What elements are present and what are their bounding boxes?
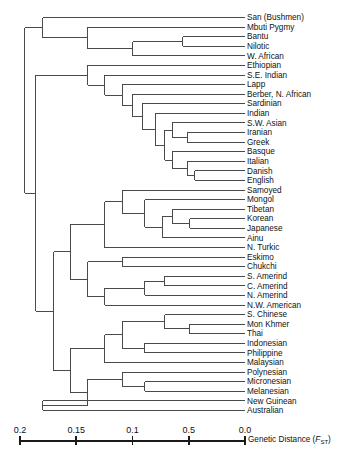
leaf-label: Tibetan	[247, 205, 274, 214]
leaf-label: Nilotic	[247, 42, 269, 51]
leaf-label: Polynesian	[247, 368, 288, 377]
leaf-label: N.W. American	[247, 301, 302, 310]
leaf-label: Melanesian	[247, 387, 289, 396]
axis-tick-label: 0.15	[67, 425, 85, 435]
dendrogram-figure: San (Bushmen)Mbuti PygmyBantuNiloticW. A…	[0, 0, 345, 449]
leaf-label: Ethiopian	[247, 61, 282, 70]
tree-branches	[25, 18, 246, 411]
leaf-label: Basque	[247, 147, 275, 156]
leaf-label: C. Amerind	[247, 282, 288, 291]
leaf-label: Philippine	[247, 349, 283, 358]
leaf-label: Eskimo	[247, 253, 274, 262]
leaf-label: Greek	[247, 138, 270, 147]
axis-title: Genetic Distance (FST)	[248, 435, 331, 444]
leaf-label: Mongol	[247, 195, 274, 204]
leaf-label: Samoyed	[247, 186, 282, 195]
leaf-label: Berber, N. African	[247, 90, 312, 99]
leaf-label: Sardinian	[247, 99, 282, 108]
axis-tick-label: 0.5	[182, 425, 195, 435]
leaf-label: English	[247, 176, 274, 185]
leaf-label: San (Bushmen)	[247, 13, 304, 22]
leaf-label: Chukchi	[247, 262, 277, 271]
leaf-label: Japanese	[247, 224, 283, 233]
leaf-label: Micronesian	[247, 377, 292, 386]
leaf-label: Malaysian	[247, 358, 284, 367]
leaf-label: Mbuti Pygmy	[247, 23, 295, 32]
leaf-label: S.W. Asian	[247, 119, 287, 128]
axis-tick-label: 0.0	[239, 425, 252, 435]
leaf-label: Indian	[247, 109, 270, 118]
leaf-label: S. Amerind	[247, 272, 287, 281]
leaf-label: New Guinean	[247, 397, 297, 406]
leaf-label: Korean	[247, 214, 274, 223]
leaf-label: N. Turkic	[247, 243, 279, 252]
leaf-label: N. Amerind	[247, 291, 288, 300]
leaf-label: Ainu	[247, 234, 264, 243]
leaf-label: S.E. Indian	[247, 71, 288, 80]
leaf-label: Mon Khmer	[247, 320, 290, 329]
axis-tick-label: 0.2	[14, 425, 27, 435]
leaf-label: Bantu	[247, 32, 269, 41]
phylogenetic-tree-svg: San (Bushmen)Mbuti PygmyBantuNiloticW. A…	[0, 0, 345, 449]
genetic-distance-axis: 0.20.150.10.50.0Genetic Distance (FST)	[14, 425, 331, 445]
axis-tick-label: 0.1	[126, 425, 139, 435]
leaf-label: S. Chinese	[247, 310, 287, 319]
leaf-label: Thai	[247, 329, 263, 338]
leaf-label: Indonesian	[247, 339, 288, 348]
leaf-label: Iranian	[247, 128, 272, 137]
leaf-label: Danish	[247, 167, 273, 176]
leaf-label: W. African	[247, 52, 284, 61]
leaf-label: Italian	[247, 157, 269, 166]
leaf-labels: San (Bushmen)Mbuti PygmyBantuNiloticW. A…	[247, 13, 312, 415]
leaf-label: Lapp	[247, 80, 266, 89]
leaf-label: Australian	[247, 406, 284, 415]
